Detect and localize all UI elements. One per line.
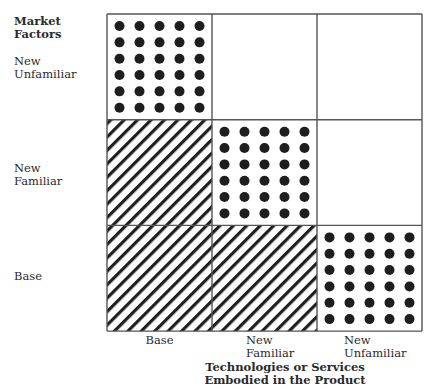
cell-hatch — [107, 225, 212, 331]
cell-dots — [115, 21, 205, 113]
x-label-base: Base — [107, 334, 212, 347]
x-label-new-familiar: New Familiar — [246, 334, 294, 360]
cell-dots — [220, 127, 310, 219]
market-technology-matrix — [0, 0, 432, 389]
x-label-new-unfamiliar: New Unfamiliar — [344, 334, 407, 360]
x-axis-title: Technologies or Services Embodied in the… — [200, 361, 370, 387]
cell-hatch — [212, 225, 317, 331]
cell-dots — [325, 232, 415, 324]
cell-hatch — [107, 120, 212, 226]
